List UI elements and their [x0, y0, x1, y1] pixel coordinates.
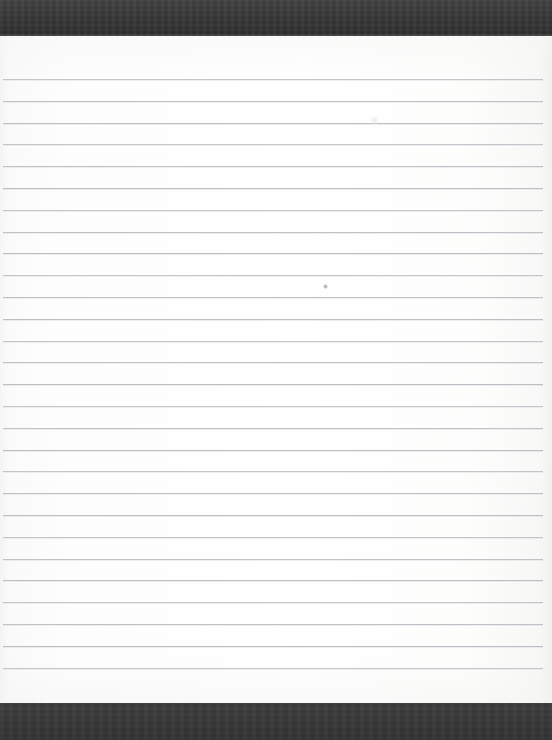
rule-line	[3, 624, 543, 625]
rule-line	[3, 428, 543, 429]
rule-line	[3, 471, 543, 472]
faint-light-smudge	[370, 116, 379, 125]
rule-line	[3, 646, 543, 647]
scanner-top-band	[0, 0, 552, 36]
rule-line	[3, 188, 543, 189]
rule-line	[3, 297, 543, 298]
rule-line	[3, 210, 543, 211]
rule-line	[3, 384, 543, 385]
rule-line	[3, 537, 543, 538]
rule-line	[3, 668, 543, 669]
rule-line	[3, 515, 543, 516]
rule-line	[3, 123, 543, 124]
rule-line	[3, 580, 543, 581]
scanned-page	[0, 0, 552, 740]
scanner-bottom-band	[0, 703, 552, 740]
faint-dark-speck	[323, 284, 328, 289]
rule-line	[3, 341, 543, 342]
rule-line	[3, 559, 543, 560]
rule-line	[3, 101, 543, 102]
rule-line	[3, 253, 543, 254]
rule-line	[3, 79, 543, 80]
rule-line	[3, 232, 543, 233]
rule-line	[3, 144, 543, 145]
rule-line	[3, 275, 543, 276]
rule-line	[3, 166, 543, 167]
paper-sheet	[0, 36, 552, 703]
rule-line	[3, 362, 543, 363]
rule-line	[3, 493, 543, 494]
rule-line	[3, 406, 543, 407]
rule-line	[3, 319, 543, 320]
rule-line	[3, 450, 543, 451]
rule-line	[3, 602, 543, 603]
